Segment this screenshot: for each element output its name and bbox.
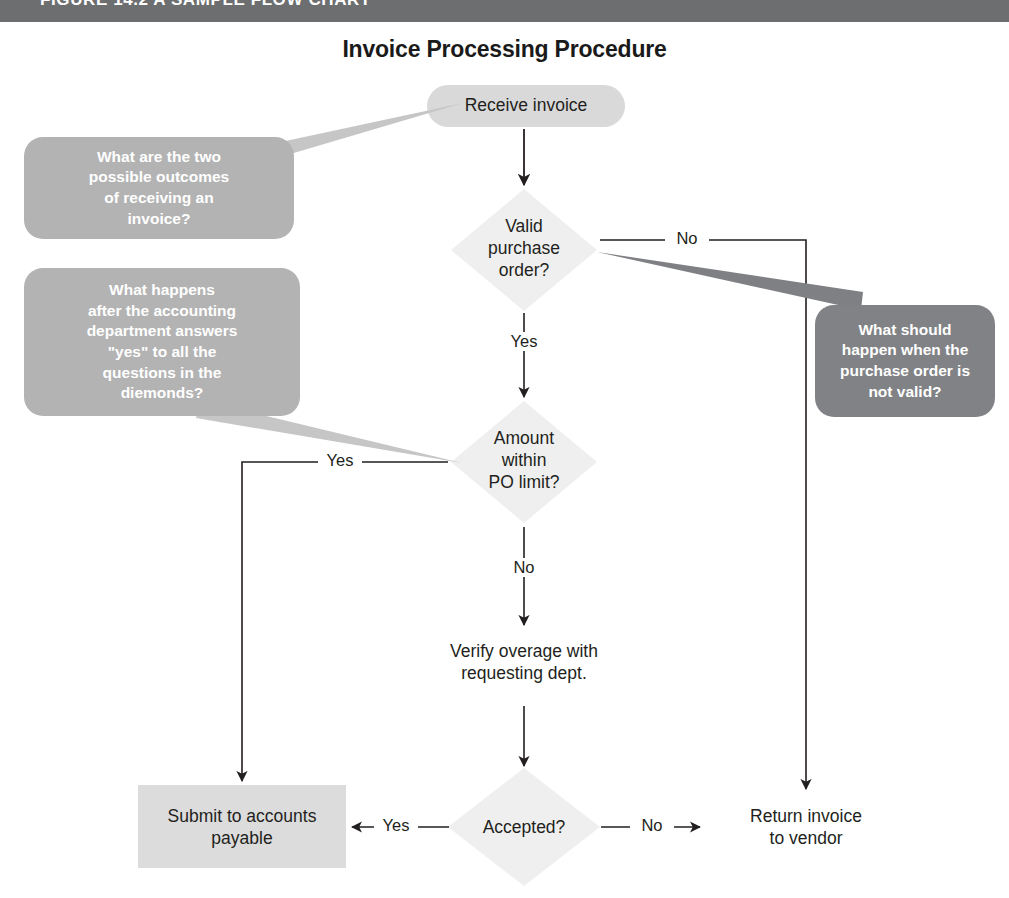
callout-outcomes: What are the two possible outcomes of re… — [24, 137, 294, 239]
node-valid-po-shape — [451, 189, 597, 311]
node-receive-invoice-shape — [427, 85, 625, 127]
callout-not-valid: What should happen when the purchase ord… — [815, 305, 995, 417]
flowchart-canvas — [0, 0, 1009, 898]
node-submit-shape — [138, 785, 346, 868]
node-accepted-shape — [448, 768, 600, 886]
edge-valid-no — [600, 240, 806, 789]
callout-tail-not-valid — [597, 252, 863, 310]
edge-amount-yes — [242, 462, 448, 781]
node-amount-shape — [451, 401, 597, 523]
callout-after-yes: What happens after the accounting depart… — [24, 268, 300, 416]
figure-page: FIGURE 14.2 A SAMPLE FLOW CHART Invoice … — [0, 0, 1009, 898]
